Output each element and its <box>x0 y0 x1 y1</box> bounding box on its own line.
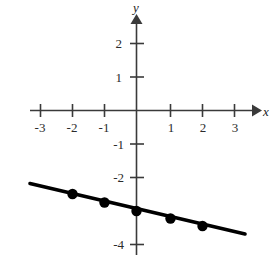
graph-figure: -3 -2 -1 1 2 3 2 1 -1 -2 -4 x y <box>0 0 272 263</box>
x-tick-label-pos2: 2 <box>200 120 207 135</box>
x-axis-arrowhead <box>252 105 262 117</box>
y-tick-label-neg2: -2 <box>113 170 124 185</box>
y-axis-label: y <box>131 0 139 15</box>
data-point <box>99 197 109 207</box>
y-axis-arrowhead <box>131 14 143 24</box>
coordinate-plane-svg: -3 -2 -1 1 2 3 2 1 -1 -2 -4 x y <box>0 0 272 263</box>
x-axis-label: x <box>262 104 269 119</box>
data-point <box>131 206 141 216</box>
y-tick-label-pos1: 1 <box>116 70 123 85</box>
x-tick-label-pos1: 1 <box>168 120 175 135</box>
y-tick-label-neg4: -4 <box>113 237 124 252</box>
data-point <box>197 221 207 231</box>
x-tick-label-neg3: -3 <box>35 120 46 135</box>
x-tick-label-pos3: 3 <box>232 120 239 135</box>
data-point <box>67 189 77 199</box>
y-tick-label-neg1: -1 <box>113 137 124 152</box>
data-point <box>165 213 175 223</box>
y-tick-label-pos2: 2 <box>116 36 123 51</box>
x-tick-label-neg2: -2 <box>67 120 78 135</box>
x-tick-label-neg1: -1 <box>99 120 110 135</box>
